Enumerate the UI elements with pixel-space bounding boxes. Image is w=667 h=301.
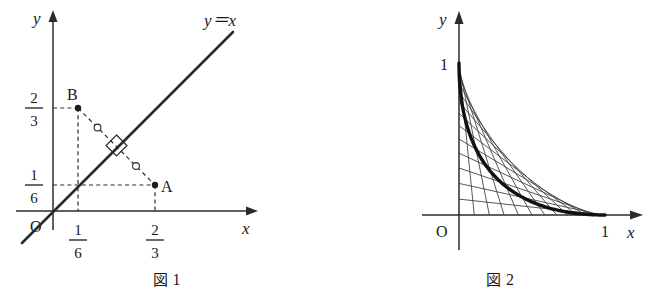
figure-1: y x O y＝x B A xyxy=(0,0,334,301)
line-label-y-equals-x: y＝x xyxy=(202,11,237,30)
segment-ab xyxy=(78,108,155,185)
figure-1-caption-symbol: 図 xyxy=(153,271,169,289)
right-angle-marker xyxy=(106,135,127,156)
equal-length-mark-1 xyxy=(94,124,101,131)
y-tick-two-thirds-numerator: 2 xyxy=(30,90,38,106)
figure-2-caption: 図2 xyxy=(334,268,667,289)
equal-length-mark-2 xyxy=(133,163,140,170)
figure-1-caption-number: 1 xyxy=(173,271,182,288)
figure-1-caption: 図1 xyxy=(0,268,334,289)
y-axis-label: y xyxy=(31,9,41,28)
figure-1-graph: y x O y＝x B A xyxy=(0,0,334,266)
unit-segment xyxy=(459,102,557,215)
x-tick-one-label: 1 xyxy=(601,223,609,240)
x-tick-two-thirds: 2 3 xyxy=(146,222,164,261)
y-axis-arrowhead xyxy=(455,11,464,24)
unit-segment xyxy=(459,183,602,215)
point-a-dot xyxy=(152,182,158,188)
point-a-label: A xyxy=(161,178,173,195)
astroid-envelope-curve xyxy=(459,63,605,215)
x-tick-two-thirds-numerator: 2 xyxy=(151,222,159,238)
origin-label: O xyxy=(436,223,448,240)
point-b-dot xyxy=(75,105,81,111)
x-tick-one-sixth: 1 6 xyxy=(69,222,87,261)
figure-2-caption-number: 2 xyxy=(506,271,515,288)
figure-2-caption-symbol: 図 xyxy=(486,271,502,289)
x-tick-one-sixth-denominator: 6 xyxy=(74,245,82,261)
y-tick-one-sixth-numerator: 1 xyxy=(30,167,38,183)
x-tick-one-sixth-numerator: 1 xyxy=(74,222,82,238)
unit-segment xyxy=(459,76,518,215)
y-tick-one-sixth: 1 6 xyxy=(25,167,43,206)
y-tick-two-thirds: 2 3 xyxy=(25,90,43,129)
y-axis-label: y xyxy=(437,10,447,29)
x-tick-two-thirds-denominator: 3 xyxy=(151,245,159,261)
y-tick-one-label: 1 xyxy=(440,56,448,73)
y-axis-arrowhead xyxy=(49,10,58,22)
figure-2: y x O 1 1 図2 xyxy=(334,0,667,301)
x-axis-arrowhead xyxy=(246,207,258,216)
point-b-label: B xyxy=(67,86,78,103)
figure-page: y x O y＝x B A xyxy=(0,0,667,301)
y-tick-one-sixth-denominator: 6 xyxy=(30,190,38,206)
unit-segment xyxy=(459,66,489,215)
y-tick-two-thirds-denominator: 3 xyxy=(30,113,38,129)
unit-segment-family xyxy=(459,64,604,215)
x-axis-label: x xyxy=(626,223,635,242)
x-axis-label: x xyxy=(241,219,250,238)
x-axis-arrowhead xyxy=(630,211,643,220)
figure-2-graph: y x O 1 1 xyxy=(334,0,667,266)
